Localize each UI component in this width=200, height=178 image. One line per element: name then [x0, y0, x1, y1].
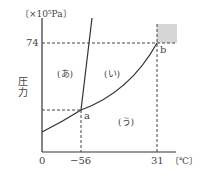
- region-solid-label: (あ): [57, 69, 73, 79]
- melting-curve: [81, 18, 92, 110]
- sublimation-curve: [42, 110, 81, 132]
- y-axis-label: 圧力: [16, 76, 26, 98]
- region-liquid-label: (い): [104, 69, 120, 79]
- x-unit-label: 〔℃〕: [170, 156, 198, 166]
- x-tick-0: 0: [39, 156, 45, 166]
- x-tick-31: 31: [151, 156, 164, 166]
- phase-diagram: [0, 0, 200, 178]
- y-tick-74: 74: [26, 38, 39, 48]
- y-unit-label: 〔×10⁵Pa〕: [20, 9, 72, 19]
- point-a-label: a: [84, 111, 90, 121]
- region-gas-label: (う): [118, 117, 134, 127]
- supercritical-region: [157, 24, 177, 43]
- x-tick-minus56: −56: [70, 156, 91, 166]
- point-b-label: b: [160, 45, 166, 55]
